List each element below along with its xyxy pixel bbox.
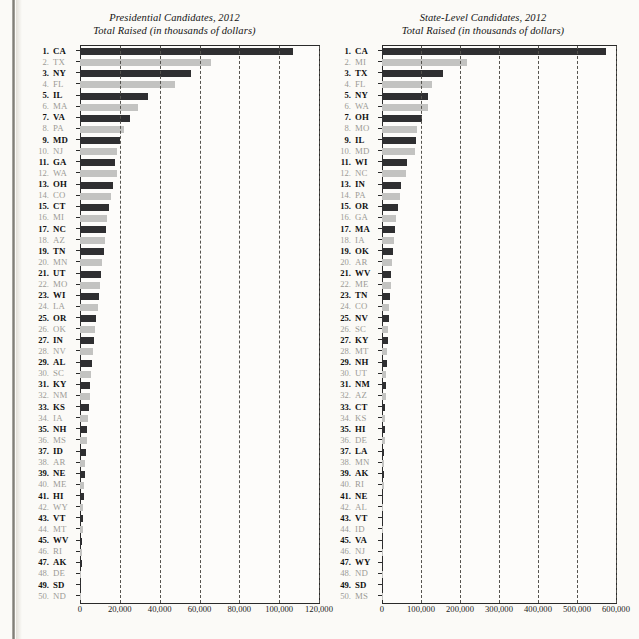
plot-area-presidential	[80, 45, 320, 604]
bar-ny	[80, 70, 191, 77]
rank-number: 10.	[332, 146, 351, 156]
rank-number: 13.	[30, 179, 49, 189]
bar-ak	[80, 560, 82, 567]
bar-ut	[382, 371, 386, 378]
bar-ar	[382, 259, 392, 266]
category-label-row: 25.NV	[327, 312, 382, 323]
category-axis-labels-presidential: 1.CA2.TX3.NY4.FL5.IL6.MA7.VA8.PA9.MD10.N…	[22, 45, 80, 602]
bar-ct	[382, 404, 385, 411]
bar-nj	[382, 549, 383, 556]
rank-number: 2.	[332, 57, 351, 67]
rank-number: 38.	[30, 457, 49, 467]
category-label-row: 31.KY	[22, 379, 80, 390]
category-label-row: 35.NH	[22, 423, 80, 434]
x-tick-label: 0	[380, 604, 384, 614]
state-abbreviation: IL	[53, 90, 75, 100]
category-label-row: 42.WY	[22, 501, 80, 512]
bar-ks	[80, 404, 89, 411]
bar-az	[382, 393, 386, 400]
bar-wa	[80, 170, 117, 177]
rank-number: 20.	[30, 257, 49, 267]
bar-nm	[382, 382, 386, 389]
bar-wi	[80, 293, 99, 300]
category-label-row: 46.NJ	[327, 546, 382, 557]
bar-tn	[80, 248, 104, 255]
category-label-row: 34.KS	[327, 412, 382, 423]
bar-ri	[80, 549, 82, 556]
bar-mn	[80, 259, 102, 266]
category-label-row: 24.LA	[22, 301, 80, 312]
category-label-row: 21.WV	[327, 268, 382, 279]
category-label-row: 30.UT	[327, 368, 382, 379]
category-label-row: 4.FL	[22, 78, 80, 89]
bar-pa	[382, 193, 400, 200]
category-label-row: 37.LA	[327, 446, 382, 457]
rank-number: 12.	[30, 168, 49, 178]
rank-number: 43.	[332, 513, 351, 523]
rank-number: 28.	[30, 346, 49, 356]
rank-number: 21.	[30, 268, 49, 278]
state-abbreviation: LA	[53, 301, 75, 311]
bar-ar	[80, 460, 85, 467]
category-label-row: 47.AK	[22, 557, 80, 568]
state-abbreviation: MS	[355, 591, 377, 601]
bar-wv	[80, 538, 82, 545]
state-abbreviation: MA	[53, 101, 75, 111]
bar-wy	[80, 504, 83, 511]
rank-number: 40.	[332, 479, 351, 489]
rank-number: 34.	[30, 413, 49, 423]
rank-number: 50.	[30, 591, 49, 601]
x-tick-label: 600,000	[602, 604, 630, 614]
bar-co	[80, 193, 111, 200]
category-label-row: 23.TN	[327, 290, 382, 301]
category-label-row: 19.OK	[327, 245, 382, 256]
bar-sc	[80, 371, 91, 378]
bar-oh	[80, 182, 113, 189]
x-tick-label: 80,000	[228, 604, 252, 614]
gridline	[160, 46, 161, 603]
category-label-row: 7.OH	[327, 112, 382, 123]
category-label-row: 5.NY	[327, 90, 382, 101]
bar-nd	[80, 593, 81, 600]
state-abbreviation: TX	[53, 57, 75, 67]
rank-number: 36.	[30, 435, 49, 445]
rank-number: 11.	[332, 157, 351, 167]
state-abbreviation: IN	[355, 179, 377, 189]
state-abbreviation: VA	[355, 535, 377, 545]
state-abbreviation: NE	[355, 491, 377, 501]
state-abbreviation: CO	[53, 190, 75, 200]
state-abbreviation: GA	[53, 157, 75, 167]
state-abbreviation: CO	[355, 301, 377, 311]
state-abbreviation: NC	[355, 168, 377, 178]
category-label-row: 15.OR	[327, 201, 382, 212]
state-abbreviation: AK	[355, 468, 377, 478]
state-abbreviation: NC	[53, 224, 75, 234]
category-label-row: 22.ME	[327, 279, 382, 290]
rank-number: 37.	[30, 446, 49, 456]
category-label-row: 44.ID	[327, 523, 382, 534]
rank-number: 41.	[332, 491, 351, 501]
state-abbreviation: WY	[355, 557, 377, 567]
rank-number: 13.	[332, 179, 351, 189]
category-label-row: 50.ND	[22, 590, 80, 601]
rank-number: 34.	[332, 413, 351, 423]
rank-number: 47.	[30, 557, 49, 567]
page-gutter-shadow	[12, 0, 15, 639]
bar-nd	[382, 571, 383, 578]
state-abbreviation: LA	[355, 446, 377, 456]
state-abbreviation: NJ	[355, 546, 377, 556]
rank-number: 31.	[30, 379, 49, 389]
category-label-row: 10.NJ	[22, 145, 80, 156]
gridline	[421, 46, 422, 603]
category-label-row: 25.OR	[22, 312, 80, 323]
category-label-row: 21.UT	[22, 268, 80, 279]
category-label-row: 18.IA	[327, 234, 382, 245]
bar-il	[80, 93, 148, 100]
bar-nh	[382, 360, 387, 367]
bar-ok	[382, 248, 393, 255]
bar-ks	[382, 415, 385, 422]
rank-number: 47.	[332, 557, 351, 567]
category-label-row: 47.WY	[327, 557, 382, 568]
rank-number: 2.	[30, 57, 49, 67]
plot-area-state-level	[382, 45, 617, 604]
